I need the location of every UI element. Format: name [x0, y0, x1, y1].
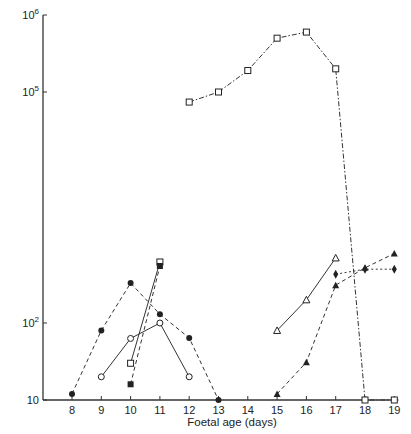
filled-square-marker: [157, 263, 163, 269]
open-square-marker: [216, 89, 222, 95]
filled-circle-marker: [216, 397, 222, 403]
open-square-marker: [333, 66, 339, 72]
filled-circle-marker: [69, 391, 75, 397]
x-tick-label: 10: [124, 404, 136, 416]
y-tick-label: 105: [22, 84, 39, 98]
filled-square-marker: [128, 381, 134, 387]
series-line: [72, 283, 219, 400]
series-line: [277, 258, 336, 331]
open-circle-marker: [157, 320, 163, 326]
filled-circle-marker: [98, 327, 104, 333]
series-open-square-dashdot: [186, 29, 397, 403]
x-tick-label: 11: [154, 404, 165, 416]
open-square-marker: [391, 397, 397, 403]
series-open-triangle-solid: [274, 254, 340, 333]
series-filled-circle-dashed: [69, 280, 222, 403]
axis-labels: Foetal age (days): [187, 416, 277, 428]
filled-diamond-marker: [333, 270, 338, 279]
x-tick-label: 9: [98, 404, 104, 416]
filled-circle-marker: [186, 335, 192, 341]
series-line: [131, 262, 160, 363]
open-square-marker: [274, 35, 280, 41]
y-tick-label: 106: [22, 7, 39, 21]
x-tick-label: 8: [69, 404, 75, 416]
filled-triangle-marker: [391, 250, 398, 257]
filled-triangle-marker: [303, 359, 310, 366]
axes: 891011121314151617181910102105106: [22, 7, 400, 416]
open-square-marker: [303, 29, 309, 35]
filled-diamond-marker: [363, 265, 368, 274]
y-tick-label: 10: [27, 394, 39, 406]
open-circle-marker: [128, 335, 134, 341]
open-square-marker: [186, 99, 192, 105]
x-axis-title: Foetal age (days): [187, 416, 277, 428]
x-tick-label: 12: [183, 404, 195, 416]
open-square-marker: [362, 397, 368, 403]
open-triangle-marker: [332, 254, 339, 261]
x-tick-label: 15: [271, 404, 283, 416]
open-square-marker: [245, 68, 251, 74]
x-tick-label: 19: [388, 404, 400, 416]
open-square-marker: [128, 360, 134, 366]
filled-triangle-marker: [332, 282, 339, 289]
x-tick-label: 17: [330, 404, 342, 416]
x-tick-label: 13: [212, 404, 224, 416]
open-triangle-marker: [303, 296, 310, 303]
filled-circle-marker: [128, 280, 134, 286]
series-line: [189, 32, 394, 400]
series-filled-diamond-dotted: [333, 265, 397, 279]
series-layer: [69, 29, 398, 403]
x-tick-label: 16: [300, 404, 312, 416]
filled-circle-marker: [157, 311, 163, 317]
filled-diamond-marker: [392, 265, 397, 274]
y-tick-label: 102: [22, 315, 39, 329]
x-tick-label: 18: [359, 404, 371, 416]
open-circle-marker: [186, 374, 192, 380]
chart: 891011121314151617181910102105106 Foetal…: [0, 0, 411, 434]
series-line: [101, 323, 189, 377]
x-tick-label: 14: [242, 404, 254, 416]
open-circle-marker: [98, 374, 104, 380]
